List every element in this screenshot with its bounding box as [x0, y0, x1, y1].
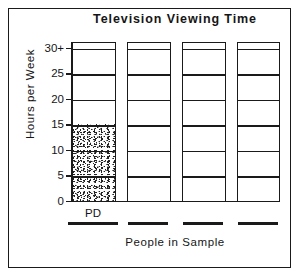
- chart-title: Television Viewing Time: [60, 12, 290, 26]
- y-axis-title: Hours per Week: [24, 34, 36, 154]
- grid-line: [73, 125, 115, 127]
- sample-rule-1: [68, 222, 118, 225]
- grid-line: [128, 100, 170, 102]
- sample-label-1: PD: [69, 207, 117, 219]
- grid-line: [238, 176, 279, 178]
- y-tick-label: 5: [58, 169, 64, 181]
- y-tick-label: 15: [51, 118, 64, 130]
- grid-line: [73, 176, 115, 178]
- grid-line: [128, 74, 170, 76]
- y-tick-label: 20: [51, 93, 64, 105]
- grid-line: [183, 151, 225, 153]
- chart-screenshot: Television Viewing Time Hours per Week 3…: [0, 0, 300, 277]
- grid-line: [73, 151, 115, 153]
- grid-line: [238, 151, 279, 153]
- x-axis-title: People in Sample: [60, 236, 290, 248]
- y-tick-label: 30+: [44, 42, 64, 54]
- grid-line: [238, 125, 279, 127]
- plot-area: 30+ 25 20 15 10 5 0: [71, 42, 280, 202]
- bar-fill-1: [73, 124, 115, 201]
- bar-column-2[interactable]: [127, 42, 171, 201]
- y-tick-label: 0: [58, 195, 64, 207]
- grid-line: [128, 151, 170, 153]
- sample-rule-4: [238, 222, 278, 225]
- grid-line: [73, 49, 115, 51]
- bar-column-1[interactable]: [72, 42, 116, 201]
- grid-line: [238, 100, 279, 102]
- grid-line: [73, 74, 115, 76]
- grid-line: [183, 176, 225, 178]
- grid-line: [128, 125, 170, 127]
- grid-line: [183, 100, 225, 102]
- grid-line: [183, 49, 225, 51]
- grid-line: [183, 74, 225, 76]
- grid-line: [238, 74, 279, 76]
- bar-column-4[interactable]: [237, 42, 280, 201]
- y-tick-label: 10: [51, 144, 64, 156]
- sample-rule-2: [128, 222, 168, 225]
- bar-column-3[interactable]: [182, 42, 226, 201]
- grid-line: [73, 100, 115, 102]
- grid-line: [238, 49, 279, 51]
- sample-rule-3: [183, 222, 223, 225]
- grid-line: [183, 125, 225, 127]
- grid-line: [128, 49, 170, 51]
- y-tick-label: 25: [51, 67, 64, 79]
- grid-line: [128, 176, 170, 178]
